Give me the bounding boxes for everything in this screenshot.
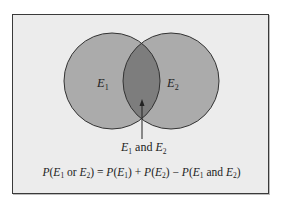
addition-rule-formula: P(E1 or E2) = P(E1) + P(E2) − P(E1 and E… xyxy=(0,166,283,178)
label-intersection: E1 and E2 xyxy=(120,140,167,156)
venn-diagram: E1 E2 E1 and E2 xyxy=(0,0,283,211)
